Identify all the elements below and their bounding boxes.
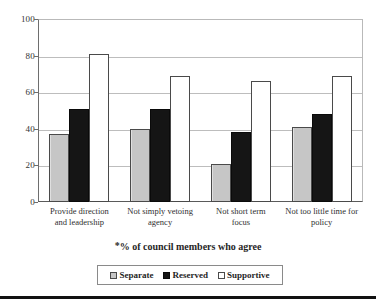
reserved-swatch [163, 272, 170, 279]
chart-footnote: *% of council members who agree [0, 240, 376, 253]
x-axis-label-line: Not simply vetoing [121, 206, 200, 217]
bar-separate [292, 127, 312, 202]
bar-group [120, 19, 201, 202]
bar-separate [211, 164, 231, 202]
bar-separate [49, 134, 69, 202]
x-axis-label-line: Not too little time for [282, 206, 361, 217]
bar-supportive [251, 81, 271, 202]
bar-reserved [69, 109, 89, 202]
y-axis-tick-label: 100 [5, 15, 35, 24]
bar-separate [130, 129, 150, 202]
y-axis-tick-label: 40 [5, 125, 35, 134]
y-axis-tick-label: 0 [5, 198, 35, 207]
bottom-divider-rule [0, 296, 376, 299]
x-axis-category-labels: Provide directionand leadershipNot simpl… [39, 206, 362, 236]
x-axis-label: Not simply vetoingagency [120, 206, 201, 236]
bar-group [39, 19, 120, 202]
bar-reserved [312, 114, 332, 202]
bar-supportive [89, 54, 109, 202]
bar-supportive [170, 76, 190, 202]
legend-item: Reserved [163, 270, 208, 280]
legend-label: Supportive [227, 270, 270, 280]
bar-chart-figure: 100806040200 Provide directionand leader… [0, 0, 376, 307]
x-axis-label-line: focus [202, 217, 281, 228]
legend-item: Separate [110, 270, 153, 280]
y-axis-tick-label: 20 [5, 161, 35, 170]
x-axis-label-line: Provide direction [40, 206, 119, 217]
footnote-text: % of council members who agree [120, 241, 262, 252]
bar-supportive [332, 76, 352, 202]
x-axis-label: Not short termfocus [201, 206, 282, 236]
legend-label: Reserved [172, 270, 208, 280]
chart-legend: SeparateReservedSupportive [97, 265, 283, 285]
y-axis-tick-mark [34, 202, 38, 203]
y-axis-tick-label: 60 [5, 88, 35, 97]
bar-group [201, 19, 282, 202]
x-axis-label-line: policy [282, 217, 361, 228]
x-axis-label-line: Not short term [202, 206, 281, 217]
legend-item: Supportive [218, 270, 270, 280]
x-axis-label: Not too little time forpolicy [281, 206, 362, 236]
legend-label: Separate [119, 270, 153, 280]
bar-reserved [150, 109, 170, 202]
y-axis-tick-label: 80 [5, 52, 35, 61]
separate-swatch [110, 272, 117, 279]
x-axis-label: Provide directionand leadership [39, 206, 120, 236]
bar-group [281, 19, 362, 202]
bar-reserved [231, 132, 251, 202]
bar-groups [39, 19, 362, 202]
x-axis-label-line: agency [121, 217, 200, 228]
x-axis-label-line: and leadership [40, 217, 119, 228]
supportive-swatch [218, 272, 225, 279]
